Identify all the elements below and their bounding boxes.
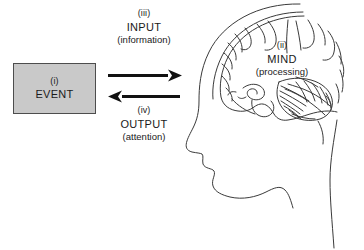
cerebellum-folia-path — [281, 101, 300, 114]
corpus-callosum-path — [243, 84, 264, 100]
pituitary-path — [238, 97, 246, 99]
gyrus-path — [336, 42, 341, 64]
mind-sublabel: (processing) — [234, 66, 330, 78]
ear-path — [318, 121, 323, 144]
gyrus-path — [222, 76, 229, 91]
head-profile-illustration — [0, 0, 364, 250]
gyrus-path — [340, 70, 343, 92]
mind-label: MIND — [234, 52, 330, 66]
diagram-canvas: (i) EVENT (iii) INPUT (information) (iv)… — [0, 0, 364, 250]
cerebellum-folia-path — [320, 87, 328, 105]
gyrus-path — [336, 84, 339, 103]
mind-caption: (ii) MIND (processing) — [234, 40, 330, 78]
mind-marker: (ii) — [234, 40, 330, 52]
